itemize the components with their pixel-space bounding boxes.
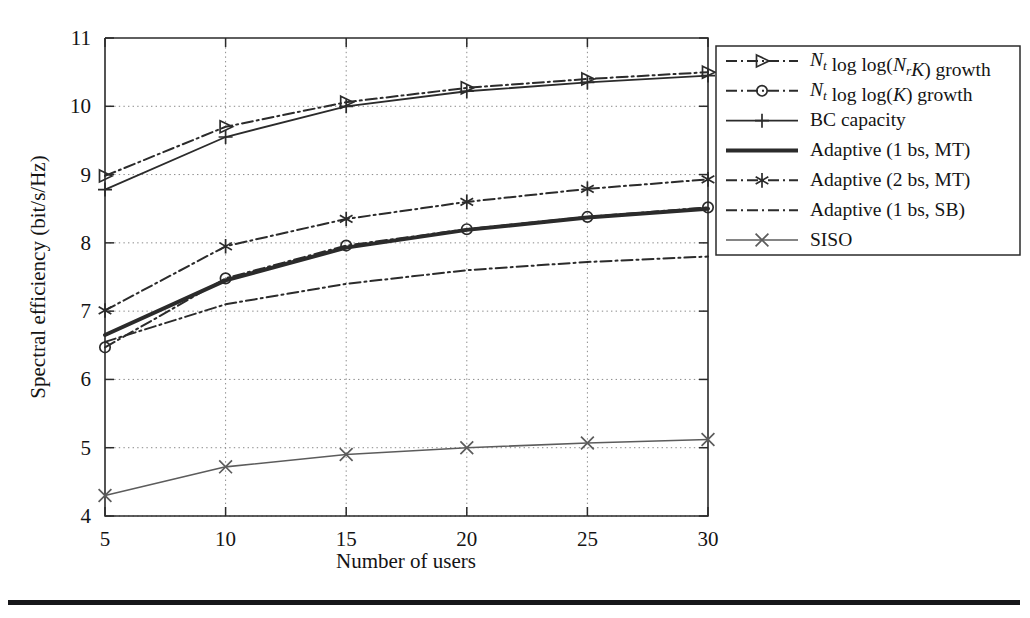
- y-tick-label: 4: [81, 504, 92, 528]
- x-tick-label: 15: [336, 527, 357, 551]
- x-tick-label: 5: [100, 527, 111, 551]
- x-tick-label: 30: [698, 527, 719, 551]
- y-tick-label: 11: [71, 26, 91, 50]
- chart-legend: Nt log log(NrK) growthNt log log(K) grow…: [716, 46, 1020, 255]
- series-0: [100, 66, 716, 182]
- data-series: [98, 66, 715, 502]
- legend-label: Adaptive (1 bs, SB): [810, 199, 965, 221]
- x-tick-label: 10: [215, 527, 236, 551]
- y-tick-label: 5: [81, 436, 92, 460]
- series-5: [105, 257, 708, 342]
- spectral-efficiency-chart: 456789101151015202530 Spectral efficienc…: [0, 0, 1030, 618]
- series-3: [105, 209, 708, 335]
- figure-root: 456789101151015202530 Spectral efficienc…: [0, 0, 1030, 618]
- tick-labels: 456789101151015202530: [70, 26, 719, 551]
- legend-label: Nt log log(K) growth: [809, 79, 973, 106]
- y-tick-label: 10: [70, 94, 91, 118]
- legend-label: BC capacity: [810, 109, 906, 130]
- series-2: [98, 69, 715, 197]
- y-tick-label: 6: [81, 367, 92, 391]
- y-tick-label: 7: [81, 299, 92, 323]
- x-tick-label: 25: [577, 527, 598, 551]
- y-tick-label: 9: [81, 163, 92, 187]
- y-axis-title: Spectral efficiency (bit/s/Hz): [26, 155, 50, 398]
- series-6: [99, 433, 715, 502]
- x-tick-label: 20: [456, 527, 477, 551]
- legend-label: Adaptive (2 bs, MT): [810, 169, 970, 191]
- x-axis-title: Number of users: [336, 549, 476, 573]
- y-tick-label: 8: [81, 231, 92, 255]
- page-bottom-rule: [8, 600, 1020, 605]
- legend-label: SISO: [810, 229, 852, 250]
- legend-label: Adaptive (1 bs, MT): [810, 139, 970, 161]
